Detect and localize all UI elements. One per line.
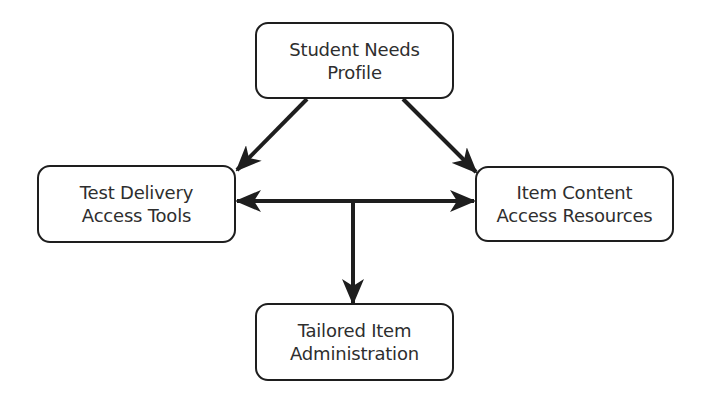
node-label-line1: Student Needs [289,38,419,61]
arrow-profile-to-item-content [403,99,476,172]
node-label-line2: Access Tools [82,204,191,227]
node-label-line2: Administration [290,342,419,365]
node-label-line1: Test Delivery [80,181,193,204]
node-label-line2: Profile [327,61,382,84]
node-label-line1: Item Content [517,181,633,204]
arrow-profile-to-test-delivery [237,99,307,170]
node-item-content-access-resources: Item Content Access Resources [475,166,674,242]
node-label-line1: Tailored Item [298,319,412,342]
flow-diagram: Student Needs Profile Test Delivery Acce… [0,0,704,397]
node-test-delivery-access-tools: Test Delivery Access Tools [37,165,236,243]
node-tailored-item-administration: Tailored Item Administration [255,303,454,381]
node-label-line2: Access Resources [496,204,652,227]
node-student-needs-profile: Student Needs Profile [255,22,454,99]
